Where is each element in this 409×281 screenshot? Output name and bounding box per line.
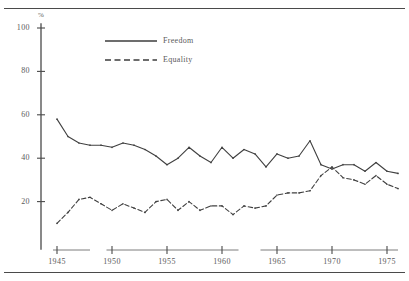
series-point-freedom [265,166,267,168]
series-point-equality [100,203,102,205]
series-point-equality [111,209,113,211]
x-axis-tick-label: 1945 [40,257,74,266]
series-point-freedom [210,162,212,164]
series-point-freedom [342,164,344,166]
series-point-equality [331,166,333,168]
series-point-equality [254,207,256,209]
series-point-equality [78,199,80,201]
series-point-equality [155,201,157,203]
series-point-equality [89,196,91,198]
series-point-equality [375,175,377,177]
series-point-freedom [144,149,146,151]
series-point-freedom [298,155,300,157]
series-point-freedom [287,157,289,159]
series-point-equality [177,209,179,211]
series-point-freedom [232,157,234,159]
series-point-freedom [397,173,399,175]
y-axis-tick-label: 20 [8,197,30,206]
series-point-equality [276,194,278,196]
plot-area [0,0,409,281]
series-point-equality [320,175,322,177]
x-axis-tick-label: 1955 [150,257,184,266]
series-point-freedom [111,147,113,149]
series-point-freedom [199,155,201,157]
series-point-freedom [364,170,366,172]
series-point-equality [353,179,355,181]
series-point-freedom [309,140,311,142]
x-axis-tick-label: 1960 [205,257,239,266]
series-point-equality [221,205,223,207]
series-point-equality [232,214,234,216]
x-axis-tick-label: 1970 [315,257,349,266]
series-point-equality [166,199,168,201]
axis-group [37,24,398,254]
series-point-freedom [177,157,179,159]
x-axis-tick-label: 1965 [260,257,294,266]
x-axis-tick-label: 1975 [370,257,404,266]
series-point-freedom [243,149,245,151]
series-point-equality [298,192,300,194]
series-point-equality [67,212,69,214]
data-series-group [56,118,399,224]
series-line-freedom [57,119,398,173]
series-point-freedom [155,155,157,157]
series-point-freedom [188,147,190,149]
series-point-freedom [122,142,124,144]
series-point-freedom [133,144,135,146]
series-point-equality [133,207,135,209]
series-point-freedom [67,136,69,138]
y-axis-tick-label: 60 [8,110,30,119]
series-point-freedom [320,164,322,166]
series-point-freedom [221,147,223,149]
series-line-equality [57,167,398,223]
series-point-freedom [166,164,168,166]
series-point-equality [188,201,190,203]
x-axis-tick-label: 1950 [95,257,129,266]
legend-label-equality: Equality [163,55,193,64]
series-point-equality [199,209,201,211]
y-axis-tick-label: 80 [8,66,30,75]
series-point-equality [386,183,388,185]
series-point-freedom [276,153,278,155]
series-point-equality [243,205,245,207]
series-point-equality [364,183,366,185]
series-point-equality [397,188,399,190]
series-point-freedom [78,142,80,144]
series-point-equality [210,205,212,207]
series-point-equality [122,203,124,205]
series-point-freedom [89,144,91,146]
series-point-equality [342,177,344,179]
series-point-equality [309,190,311,192]
series-point-equality [265,205,267,207]
series-point-equality [56,222,58,224]
series-point-equality [144,212,146,214]
chart-figure: % 10080604020 19451950195519601965197019… [0,0,409,281]
series-point-equality [287,192,289,194]
series-point-freedom [331,168,333,170]
legend-label-freedom: Freedom [163,36,194,45]
series-point-freedom [353,164,355,166]
y-axis-tick-label: 100 [8,23,30,32]
series-point-freedom [254,153,256,155]
series-point-freedom [56,118,58,120]
legend-lines-group [105,41,157,60]
series-point-freedom [100,144,102,146]
y-axis-tick-label: 40 [8,153,30,162]
series-point-freedom [386,170,388,172]
series-point-freedom [375,162,377,164]
